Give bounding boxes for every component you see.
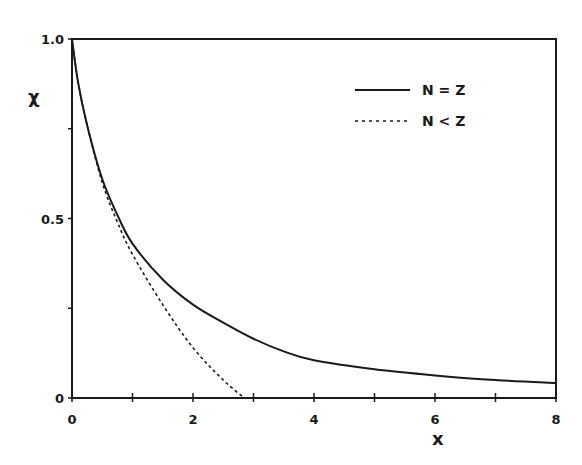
x-tick-label: 6	[430, 412, 439, 427]
x-tick-label: 0	[67, 412, 76, 427]
tick-labels: 0246800.51.0	[41, 32, 561, 427]
legend-label-n-equals-z: N = Z	[422, 82, 465, 98]
axis-ticks	[68, 39, 556, 402]
x-axis-title: x	[432, 428, 444, 449]
y-tick-label: 0.5	[41, 212, 64, 227]
x-tick-label: 4	[309, 412, 318, 427]
chart-canvas: 0246800.51.0 N = Z N < Z x χ	[0, 0, 582, 465]
x-tick-label: 8	[551, 412, 560, 427]
series-line-n-equals-z	[72, 39, 556, 383]
plot-border	[72, 39, 556, 398]
plot-frame	[72, 39, 556, 398]
y-tick-label: 1.0	[41, 32, 64, 47]
x-tick-label: 2	[188, 412, 197, 427]
legend: N = Z N < Z	[355, 82, 465, 129]
data-series	[72, 39, 556, 398]
y-axis-title: χ	[28, 86, 40, 107]
legend-label-n-less-z: N < Z	[422, 113, 465, 129]
y-tick-label: 0	[55, 391, 64, 406]
series-line-n-less-z	[72, 39, 244, 398]
